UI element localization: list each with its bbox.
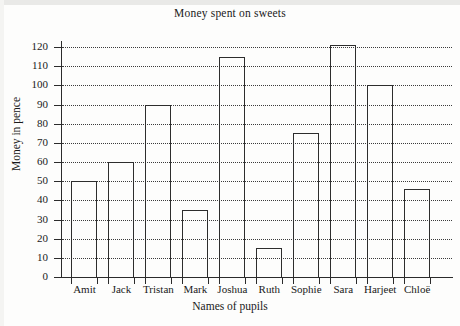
y-tick-30: [54, 220, 62, 221]
gridline-110: [62, 66, 452, 67]
chart-page: Money spent on sweets Money in pence Nam…: [0, 0, 460, 326]
gridline-120: [62, 47, 452, 48]
y-tick-80: [54, 124, 62, 125]
y-tick-label-70: 70: [8, 137, 48, 148]
bar-tristan: [145, 105, 171, 278]
y-tick-label-90: 90: [8, 99, 48, 110]
y-tick-label-40: 40: [8, 194, 48, 205]
y-tick-label-110: 110: [8, 60, 48, 71]
y-tick-50: [54, 181, 62, 182]
gridline-70: [62, 143, 452, 144]
bar-joshua: [219, 57, 245, 277]
y-tick-label-30: 30: [8, 214, 48, 225]
y-tick-label-80: 80: [8, 118, 48, 129]
scan-artifact-left-band: [0, 0, 4, 326]
y-tick-40: [54, 200, 62, 201]
y-tick-label-20: 20: [8, 233, 48, 244]
x-tick-label-chloë: Chloë: [385, 283, 449, 296]
bar-jack: [108, 162, 134, 277]
y-tick-label-0: 0: [8, 271, 48, 282]
y-tick-70: [54, 143, 62, 144]
y-tick-110: [54, 66, 62, 67]
y-tick-0: [54, 277, 62, 278]
y-tick-60: [54, 162, 62, 163]
y-tick-20: [54, 239, 62, 240]
gridline-90: [62, 105, 452, 106]
bar-sara: [330, 45, 356, 277]
bar-sophie: [293, 133, 319, 277]
chart-title: Money spent on sweets: [0, 7, 460, 19]
scan-artifact-top-band: [0, 0, 460, 5]
y-tick-label-120: 120: [8, 41, 48, 52]
x-axis-title: Names of pupils: [0, 300, 460, 312]
y-tick-10: [54, 258, 62, 259]
gridline-80: [62, 124, 452, 125]
y-tick-label-10: 10: [8, 252, 48, 263]
bar-harjeet: [367, 85, 393, 277]
y-tick-120: [54, 47, 62, 48]
y-tick-label-50: 50: [8, 175, 48, 186]
y-tick-100: [54, 85, 62, 86]
bar-amit: [71, 181, 97, 277]
y-axis-line: [61, 41, 62, 278]
bar-chloë: [404, 189, 430, 277]
y-tick-90: [54, 105, 62, 106]
y-tick-label-100: 100: [8, 79, 48, 90]
y-tick-label-60: 60: [8, 156, 48, 167]
bar-ruth: [256, 248, 282, 277]
bar-mark: [182, 210, 208, 277]
gridline-100: [62, 85, 452, 86]
